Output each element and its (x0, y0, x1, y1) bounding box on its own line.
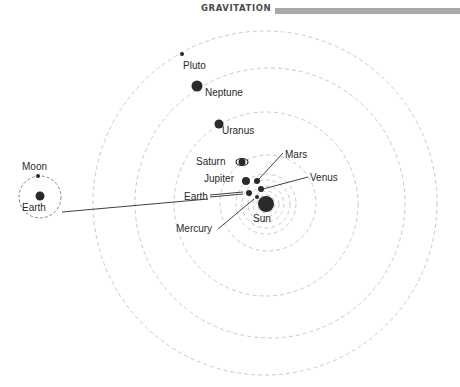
uranus-label: Uranus (222, 125, 254, 136)
solar-system-diagram: Moon Earth Pluto Neptune Uranus Saturn J… (0, 0, 460, 387)
neptune-label: Neptune (205, 87, 243, 98)
pluto-label: Pluto (183, 60, 206, 71)
pluto-body (180, 52, 184, 56)
venus-body (258, 186, 264, 192)
mars-leader-line (259, 153, 283, 179)
venus-label: Venus (310, 172, 338, 183)
mercury-body (255, 195, 259, 199)
jupiter-label: Jupiter (204, 173, 235, 184)
jupiter-body (242, 177, 250, 185)
saturn-body (236, 159, 248, 166)
moon-label: Moon (22, 161, 47, 172)
inset-earth-label: Earth (22, 202, 46, 213)
earth-body (246, 190, 252, 196)
inset-earth-dot (36, 192, 45, 201)
earth-label: Earth (184, 191, 208, 202)
neptune-body (192, 81, 203, 92)
sun-body (258, 196, 274, 212)
moon-dot (36, 174, 40, 178)
mars-body (254, 178, 260, 184)
sun-label: Sun (253, 213, 271, 224)
earth-moon-inset: Moon Earth (19, 161, 61, 218)
mercury-label: Mercury (176, 223, 212, 234)
mars-label: Mars (285, 149, 307, 160)
saturn-label: Saturn (196, 156, 225, 167)
venus-leader-line (263, 177, 308, 189)
